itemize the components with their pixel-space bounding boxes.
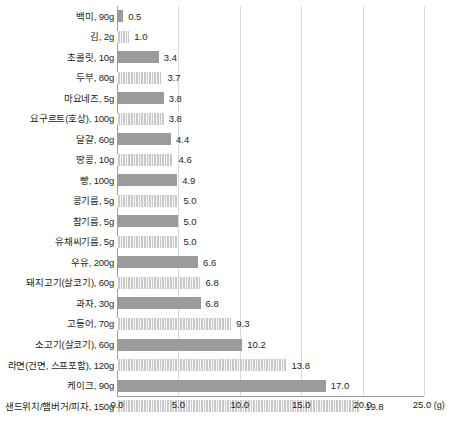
bar-row: 과자, 30g6.8 bbox=[0, 293, 454, 314]
bar-row: 빵, 100g4.9 bbox=[0, 170, 454, 191]
bar-value-label: 4.6 bbox=[178, 154, 191, 165]
x-tick-25.0: 25.0 (g) bbox=[413, 399, 445, 411]
category-label: 요구르트(호상), 100g bbox=[0, 113, 114, 124]
horizontal-bar-chart: 백미, 90g0.5김, 2g1.0초콜릿, 10g3.4두부, 80g3.7마… bbox=[0, 0, 454, 427]
bar-row: 달걀, 60g4.4 bbox=[0, 129, 454, 150]
bar-value-label: 3.7 bbox=[167, 72, 180, 83]
bar-value-label: 3.8 bbox=[169, 113, 182, 124]
bar-value-label: 3.4 bbox=[164, 52, 177, 63]
bar-value-label: 5.0 bbox=[183, 216, 196, 227]
bar bbox=[117, 215, 178, 227]
bar bbox=[117, 256, 198, 268]
bar-row: 콩기름, 5g5.0 bbox=[0, 191, 454, 212]
bar-value-label: 17.0 bbox=[331, 380, 350, 391]
bar-container: 4.4 bbox=[117, 129, 189, 150]
category-label: 과자, 30g bbox=[0, 298, 114, 309]
x-axis-unit-label: (g) bbox=[431, 400, 445, 410]
bar-row: 김, 2g1.0 bbox=[0, 27, 454, 48]
x-tick-value: 15.0 bbox=[292, 399, 311, 410]
bar-row: 요구르트(호상), 100g3.8 bbox=[0, 109, 454, 130]
bar-row: 돼지고기(살코기), 60g6.8 bbox=[0, 273, 454, 294]
bar-row: 초콜릿, 10g3.4 bbox=[0, 47, 454, 68]
bar-container: 6.8 bbox=[117, 273, 219, 294]
bar-container: 1.0 bbox=[117, 27, 147, 48]
x-tick-20.0: 20.0 bbox=[353, 399, 372, 411]
category-label: 소고기(살코기), 60g bbox=[0, 339, 114, 350]
x-tick-value: 20.0 bbox=[353, 399, 372, 410]
bar-row: 땅콩, 10g4.6 bbox=[0, 150, 454, 171]
x-tick-5.0: 5.0 bbox=[172, 399, 185, 411]
category-label: 고등어, 70g bbox=[0, 318, 114, 329]
category-label: 돼지고기(살코기), 60g bbox=[0, 277, 114, 288]
bar-container: 3.8 bbox=[117, 88, 182, 109]
x-tick-value: 25.0 bbox=[413, 399, 432, 410]
bar bbox=[117, 174, 177, 186]
bar bbox=[117, 297, 201, 309]
bar-container: 5.0 bbox=[117, 211, 197, 232]
x-tick-10.0: 10.0 bbox=[231, 399, 250, 411]
category-label: 두부, 80g bbox=[0, 72, 114, 83]
category-label: 참기름, 5g bbox=[0, 216, 114, 227]
bar-rows: 백미, 90g0.5김, 2g1.0초콜릿, 10g3.4두부, 80g3.7마… bbox=[0, 6, 454, 396]
category-label: 김, 2g bbox=[0, 31, 114, 42]
category-label: 라면(건면, 스프포함), 120g bbox=[0, 360, 114, 371]
x-axis-tick-labels: 0.05.010.015.020.025.0 (g) bbox=[0, 399, 454, 419]
bar bbox=[117, 236, 178, 248]
bar bbox=[117, 339, 242, 351]
bar-container: 3.7 bbox=[117, 68, 181, 89]
x-tick-value: 0.0 bbox=[110, 399, 123, 410]
bar-container: 10.2 bbox=[117, 334, 266, 355]
bar-value-label: 6.8 bbox=[206, 277, 219, 288]
bar bbox=[117, 318, 231, 330]
bar-container: 6.8 bbox=[117, 293, 219, 314]
bar bbox=[117, 359, 286, 371]
bar bbox=[117, 380, 326, 392]
bar bbox=[117, 133, 171, 145]
bar bbox=[117, 277, 201, 289]
bar-value-label: 1.0 bbox=[134, 31, 147, 42]
bar-value-label: 13.8 bbox=[291, 360, 310, 371]
bar-value-label: 5.0 bbox=[183, 195, 196, 206]
bar bbox=[117, 195, 178, 207]
category-label: 백미, 90g bbox=[0, 11, 114, 22]
bar-container: 4.9 bbox=[117, 170, 195, 191]
bar-value-label: 4.4 bbox=[176, 134, 189, 145]
x-tick-value: 10.0 bbox=[231, 399, 250, 410]
bar-container: 3.4 bbox=[117, 47, 177, 68]
bar-container: 5.0 bbox=[117, 232, 197, 253]
category-label: 초콜릿, 10g bbox=[0, 52, 114, 63]
bar-value-label: 9.3 bbox=[236, 318, 249, 329]
bar bbox=[117, 51, 159, 63]
bar bbox=[117, 72, 162, 84]
bar-row: 고등어, 70g9.3 bbox=[0, 314, 454, 335]
category-label: 콩기름, 5g bbox=[0, 195, 114, 206]
bar-value-label: 6.8 bbox=[206, 298, 219, 309]
bar-value-label: 6.6 bbox=[203, 257, 216, 268]
bar-row: 참기름, 5g5.0 bbox=[0, 211, 454, 232]
bar-row: 마요네즈, 5g3.8 bbox=[0, 88, 454, 109]
bar-value-label: 4.9 bbox=[182, 175, 195, 186]
bar-value-label: 0.5 bbox=[128, 11, 141, 22]
bar-container: 5.0 bbox=[117, 191, 197, 212]
category-label: 땅콩, 10g bbox=[0, 154, 114, 165]
bar-row: 소고기(살코기), 60g10.2 bbox=[0, 334, 454, 355]
x-tick-0.0: 0.0 bbox=[110, 399, 123, 411]
bar-row: 백미, 90g0.5 bbox=[0, 6, 454, 27]
bar-container: 0.5 bbox=[117, 6, 141, 27]
bar-container: 13.8 bbox=[117, 355, 310, 376]
bar-value-label: 5.0 bbox=[183, 236, 196, 247]
bar-row: 유채씨기름, 5g5.0 bbox=[0, 232, 454, 253]
bar-container: 6.6 bbox=[117, 252, 216, 273]
bar-container: 4.6 bbox=[117, 150, 192, 171]
category-label: 달걀, 60g bbox=[0, 134, 114, 145]
bar-row: 케이크, 90g17.0 bbox=[0, 375, 454, 396]
bar-value-label: 3.8 bbox=[169, 93, 182, 104]
bar-row: 라면(건면, 스프포함), 120g13.8 bbox=[0, 355, 454, 376]
bar bbox=[117, 154, 173, 166]
bar bbox=[117, 10, 123, 22]
category-label: 우유, 200g bbox=[0, 257, 114, 268]
bar-container: 3.8 bbox=[117, 109, 182, 130]
bar bbox=[117, 113, 164, 125]
bar-row: 우유, 200g6.6 bbox=[0, 252, 454, 273]
bar bbox=[117, 31, 129, 43]
